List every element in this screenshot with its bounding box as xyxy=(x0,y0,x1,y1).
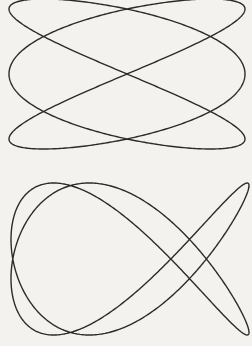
lissajous-curve-bottom xyxy=(11,183,249,335)
lissajous-figures xyxy=(0,0,252,346)
lissajous-curve-top xyxy=(9,0,245,149)
scanned-page xyxy=(0,0,252,346)
